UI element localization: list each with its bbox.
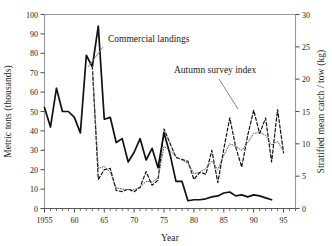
y-tick-label-right: 25 [302,43,310,52]
chart-figure: 19556065707580859095 0102030405060708090… [0,0,332,246]
series-annotation-label: Commercial landings [108,34,190,44]
y-tick-label-left: 70 [30,69,38,78]
x-tick-label: 70 [130,216,138,225]
x-tick-label: 85 [220,216,228,225]
y-tick-label-right: 5 [302,172,306,181]
y-tick-label-left: 100 [26,11,38,20]
y-tick-label-right: 30 [302,11,310,20]
y-tick-label-left: 20 [30,166,38,175]
y-tick-label-right: 10 [302,140,310,149]
x-axis-title: Year [161,233,180,243]
y-tick-label-left: 90 [30,30,38,39]
x-tick-label: 1955 [37,216,53,225]
x-tick-label: 90 [250,216,258,225]
x-tick-label: 95 [280,216,288,225]
y-tick-label-left: 30 [30,146,38,155]
series-annotation-label: Autumn survey index [174,65,257,75]
y-tick-label-right: 15 [302,108,310,117]
x-tick-label: 60 [70,216,78,225]
x-tick-label: 80 [190,216,198,225]
x-tick-label: 75 [160,216,168,225]
y-tick-label-left: 0 [34,205,38,214]
y-tick-label-left: 40 [30,127,38,136]
y-tick-label-left: 50 [30,108,38,117]
y-tick-label-left: 60 [30,88,38,97]
y-axis-left-title: Metric tons (thousands) [3,65,14,158]
y-tick-label-left: 10 [30,185,38,194]
y-tick-label-right: 0 [302,205,306,214]
x-tick-label: 65 [100,216,108,225]
y-tick-label-left: 80 [30,49,38,58]
chart-plot-area: 19556065707580859095 0102030405060708090… [0,0,332,246]
y-axis-right-title: Stratified mean catch / tow (kg) [316,50,327,174]
y-tick-label-right: 20 [302,75,310,84]
